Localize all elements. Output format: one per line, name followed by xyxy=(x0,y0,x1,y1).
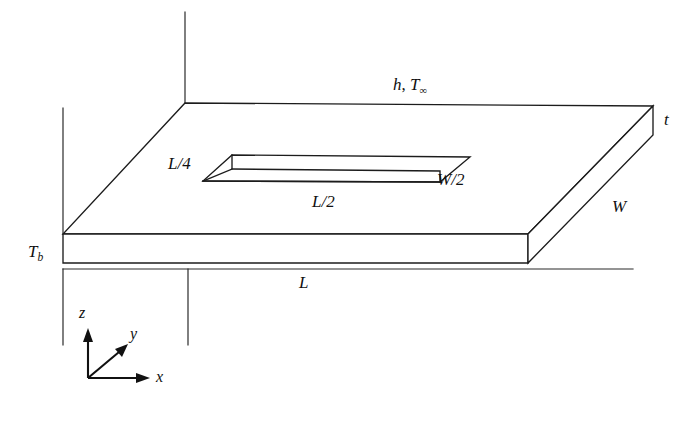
label-half-length: L/2 xyxy=(312,193,335,210)
plate-body xyxy=(63,103,653,263)
axis-x-arrowhead xyxy=(136,373,150,383)
dimension-length xyxy=(63,269,633,345)
surface-groove xyxy=(203,155,470,182)
label-comma: , xyxy=(402,75,411,94)
coordinate-axes xyxy=(83,328,150,383)
figure-canvas: h, T∞ t W W/2 L/2 L/4 Tb L x y z xyxy=(0,0,699,422)
label-length: L xyxy=(299,274,308,291)
label-convection: h, T∞ xyxy=(393,76,427,97)
axis-z-arrowhead xyxy=(83,328,93,342)
label-tb-subscript: b xyxy=(37,251,43,264)
label-tinf-subscript: ∞ xyxy=(419,85,427,96)
plate-diagram-svg xyxy=(0,0,699,422)
label-quarter-length: L/4 xyxy=(168,155,191,172)
label-thickness: t xyxy=(664,111,669,128)
label-axis-y: y xyxy=(130,326,137,342)
axis-y-shaft xyxy=(88,352,119,378)
label-h: h xyxy=(393,75,402,94)
label-axis-z: z xyxy=(79,305,85,321)
label-base-temperature: Tb xyxy=(28,243,43,264)
label-width: W xyxy=(612,198,626,215)
label-axis-x: x xyxy=(156,369,163,385)
plate-front-face xyxy=(63,234,528,263)
label-half-width: W/2 xyxy=(437,171,464,188)
